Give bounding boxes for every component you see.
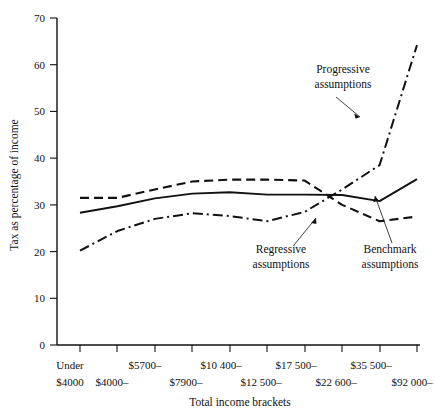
- annotation-line1: Regressive: [256, 243, 306, 256]
- y-tick-label: 0: [40, 339, 46, 351]
- y-tick-label: 10: [34, 292, 46, 304]
- y-tick-label: 70: [34, 12, 46, 24]
- x-tick-label-lower: $12 500–: [240, 376, 282, 388]
- annotation-line2: assumptions: [362, 258, 419, 271]
- series-line-regressive-assumptions: [80, 180, 417, 222]
- y-axis-tick-labels: 0 10 20 30 40 50 60 70: [34, 12, 46, 351]
- annotation-line1: Benchmark: [363, 243, 416, 255]
- y-axis-ticks: [50, 18, 57, 345]
- series-line-progressive-assumptions: [80, 45, 417, 251]
- x-tick-label-upper: $5700–: [129, 359, 163, 371]
- x-tick-label-lower: $92 000–: [391, 376, 433, 388]
- x-tick-label-lower: $22 600–: [315, 376, 357, 388]
- x-axis-category-labels: Under $5700– $10 400– $17 500– $35 500– …: [56, 359, 433, 388]
- annotation-line1: Progressive: [316, 63, 370, 76]
- y-tick-label: 30: [34, 199, 46, 211]
- x-axis-title: Total income brackets: [189, 396, 291, 408]
- y-tick-label: 40: [34, 152, 46, 164]
- y-tick-label: 50: [34, 105, 46, 117]
- annotation-leader-lines: [294, 97, 392, 245]
- chart-container: 0 10 20 30 40 50 60 70 Under $5700–: [0, 0, 435, 411]
- annotation-line2: assumptions: [315, 78, 372, 91]
- y-axis-title: Tax as percentage of income: [8, 119, 21, 250]
- line-chart-plot: 0 10 20 30 40 50 60 70 Under $5700–: [0, 0, 435, 411]
- x-axis-ticks: [80, 345, 417, 352]
- x-tick-label-upper: $10 400–: [200, 359, 242, 371]
- arrowhead-regressive: [311, 218, 316, 224]
- leader-progressive: [336, 97, 360, 117]
- x-tick-label-lower: $4000: [56, 376, 84, 388]
- x-tick-label-upper: $17 500–: [275, 359, 317, 371]
- annotation-benchmark-assumptions: Benchmark assumptions: [362, 243, 419, 271]
- y-tick-label: 60: [34, 59, 46, 71]
- annotation-line2: assumptions: [253, 258, 310, 271]
- x-tick-label-upper: Under: [56, 359, 84, 371]
- x-tick-label-lower: $4000–: [96, 376, 130, 388]
- y-tick-label: 20: [34, 246, 46, 258]
- annotation-progressive-assumptions: Progressive assumptions: [315, 63, 372, 91]
- annotation-regressive-assumptions: Regressive assumptions: [253, 243, 310, 271]
- x-tick-label-lower: $7900–: [170, 376, 204, 388]
- x-tick-label-upper: $35 500–: [350, 359, 392, 371]
